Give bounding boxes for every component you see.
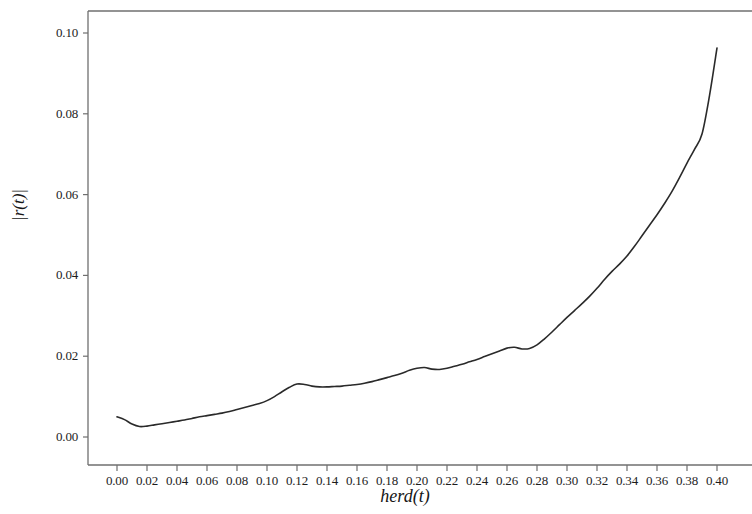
x-tick-label: 0.22 bbox=[436, 473, 458, 489]
x-axis-label: herd(t) bbox=[380, 486, 429, 507]
plot-frame bbox=[88, 11, 752, 465]
x-tick-label: 0.38 bbox=[676, 473, 698, 489]
x-axis-ticks bbox=[117, 465, 717, 471]
x-tick-label: 0.10 bbox=[256, 473, 278, 489]
y-tick-label: 0.10 bbox=[30, 25, 78, 41]
x-tick-label: 0.28 bbox=[526, 473, 548, 489]
y-tick-label: 0.02 bbox=[30, 348, 78, 364]
y-tick-label: 0.06 bbox=[30, 187, 78, 203]
x-tick-label: 0.16 bbox=[346, 473, 368, 489]
chart-plot-area bbox=[0, 0, 752, 514]
x-tick-label: 0.36 bbox=[646, 473, 668, 489]
y-axis-label: |r(t)| bbox=[9, 195, 29, 221]
y-axis-ticks bbox=[83, 33, 88, 437]
y-tick-label: 0.04 bbox=[30, 267, 78, 283]
x-tick-label: 0.00 bbox=[106, 473, 128, 489]
x-tick-label: 0.14 bbox=[316, 473, 338, 489]
x-tick-label: 0.02 bbox=[136, 473, 158, 489]
figure-canvas: 0.000.020.040.060.080.10 0.000.020.040.0… bbox=[0, 0, 752, 514]
x-tick-label: 0.30 bbox=[556, 473, 578, 489]
x-tick-label: 0.32 bbox=[586, 473, 608, 489]
x-tick-label: 0.26 bbox=[496, 473, 518, 489]
x-tick-label: 0.24 bbox=[466, 473, 488, 489]
x-tick-label: 0.06 bbox=[196, 473, 218, 489]
data-series-line bbox=[117, 48, 717, 427]
x-tick-label: 0.04 bbox=[166, 473, 188, 489]
x-tick-label: 0.40 bbox=[706, 473, 728, 489]
x-tick-label: 0.12 bbox=[286, 473, 308, 489]
x-tick-label: 0.08 bbox=[226, 473, 248, 489]
y-tick-label: 0.08 bbox=[30, 106, 78, 122]
x-tick-label: 0.34 bbox=[616, 473, 638, 489]
y-tick-label: 0.00 bbox=[30, 429, 78, 445]
